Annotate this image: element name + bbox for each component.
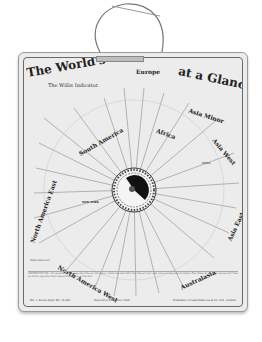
hanging-plate	[96, 56, 144, 62]
subtitle: The Willis Indicator.	[48, 82, 99, 88]
hanging-wire	[0, 0, 262, 60]
region-europe: Europe	[136, 68, 160, 75]
city-new-york: NEW YORK	[82, 201, 99, 204]
footer-publisher: Publishers: Frank Pinkerton & Co. Ltd., …	[173, 299, 236, 302]
card-border: The World's Time at a Glance The Willis …	[23, 57, 243, 307]
city-india: INDIA	[202, 162, 210, 165]
instructions-text: INSTRUCTIONS.—To ascertain with ease the…	[28, 271, 238, 296]
footer-entered: Entered at Stationers' Hall	[94, 299, 129, 302]
footer-patent: No. 1. Patent Appl. No. 18,493	[30, 299, 70, 302]
card-note: Willis Indicator	[30, 259, 52, 262]
world-time-card: The World's Time at a Glance The Willis …	[18, 52, 248, 312]
